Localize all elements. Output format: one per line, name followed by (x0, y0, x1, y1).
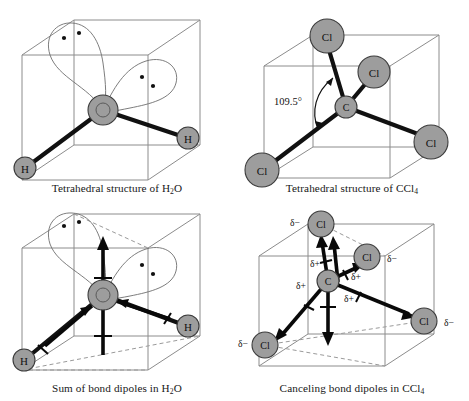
svg-text:H: H (21, 163, 29, 175)
panel-sum-bond-dipoles-h2o: H H Sum of bond dipoles in H2O (0, 200, 234, 400)
atom-chlorine-top: Cl (308, 211, 334, 237)
panel-canceling-bond-dipoles-ccl4: Cl Cl Cl Cl C δ− δ− δ− (235, 200, 469, 400)
svg-text:Cl: Cl (369, 67, 379, 79)
atom-chlorine-upper-right: Cl (358, 56, 390, 88)
h2o-structure-drawing: H H (0, 0, 234, 200)
caption-subscript: 4 (420, 387, 424, 396)
svg-text:Cl: Cl (316, 219, 326, 230)
atom-carbon: C (317, 270, 339, 292)
svg-text:H: H (20, 355, 28, 367)
atom-hydrogen-left: H (13, 349, 35, 371)
panel-tetrahedral-h2o: H H Tetrahedral structure of H2O (0, 0, 234, 200)
caption-tetrahedral-h2o: Tetrahedral structure of H2O (0, 182, 234, 196)
atom-chlorine-right: Cl (414, 125, 448, 159)
delta-plus-left: δ+ (296, 280, 306, 291)
atom-carbon: C (335, 96, 357, 118)
atom-chlorine-right: Cl (411, 308, 437, 334)
delta-plus-lower-right: δ+ (344, 293, 354, 304)
svg-text:Cl: Cl (419, 316, 429, 327)
caption-text: Tetrahedral structure of H (52, 182, 170, 194)
atom-chlorine-top: Cl (310, 19, 344, 53)
delta-plus-upper-right: δ+ (351, 271, 361, 282)
svg-text:C: C (343, 102, 350, 113)
bond-angle-label: 109.5° (274, 96, 302, 107)
svg-text:Cl: Cl (260, 340, 270, 351)
svg-text:Cl: Cl (362, 252, 372, 263)
panel-tetrahedral-ccl4: 109.5° Cl Cl Cl Cl C Tetrahe (235, 0, 469, 200)
h2o-dipoles-drawing: H H (0, 200, 234, 400)
atom-chlorine-lower-left: Cl (252, 332, 278, 358)
caption-text: Tetrahedral structure of CCl (286, 182, 414, 194)
delta-minus-lower-left: δ− (238, 338, 248, 349)
svg-text:Cl: Cl (257, 165, 267, 177)
caption-subscript: 4 (414, 187, 418, 196)
svg-text:C: C (325, 276, 332, 287)
molecular-geometry-figure: H H Tetrahedral structure of H2O (0, 0, 469, 401)
caption-text: Canceling bond dipoles in CCl (280, 382, 421, 394)
delta-plus-upper-left: δ+ (310, 258, 320, 269)
lone-pair-dots (62, 31, 155, 88)
ccl4-structure-drawing: 109.5° Cl Cl Cl Cl C (235, 0, 469, 200)
atom-hydrogen-left: H (14, 157, 36, 179)
caption-sum-bond-dipoles-h2o: Sum of bond dipoles in H2O (0, 382, 234, 396)
caption-tetrahedral-ccl4: Tetrahedral structure of CCl4 (235, 182, 469, 196)
atom-hydrogen-right: H (177, 315, 199, 337)
caption-tail: O (174, 382, 182, 394)
atom-chlorine-upper-right: Cl (354, 244, 380, 270)
svg-text:Cl: Cl (426, 137, 436, 149)
delta-minus-top: δ− (290, 217, 300, 228)
atom-oxygen (88, 95, 118, 125)
caption-tail: O (174, 182, 182, 194)
svg-text:H: H (184, 321, 192, 333)
ccl4-dipoles-drawing: Cl Cl Cl Cl C δ− δ− δ− (235, 200, 469, 400)
atom-hydrogen-right: H (177, 127, 199, 149)
svg-text:Cl: Cl (322, 31, 332, 43)
delta-minus-right: δ− (444, 317, 454, 328)
svg-text:H: H (184, 133, 192, 145)
caption-canceling-bond-dipoles-ccl4: Canceling bond dipoles in CCl4 (235, 382, 469, 396)
delta-minus-upper-right: δ− (387, 253, 397, 264)
caption-text: Sum of bond dipoles in H (52, 382, 170, 394)
atom-oxygen (88, 280, 118, 310)
